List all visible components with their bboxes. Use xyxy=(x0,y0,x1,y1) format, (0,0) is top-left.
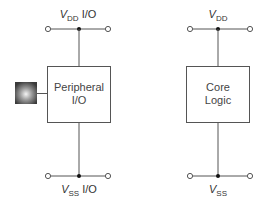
peripheral-io-title-line2: I/O xyxy=(72,94,87,106)
vdd-terminal-left xyxy=(187,26,192,31)
vdd-terminal-right xyxy=(247,26,252,31)
vss-io-label: VSS I/O xyxy=(61,183,97,198)
vss-io-junction-node xyxy=(77,174,81,178)
power-domain-diagram: VDD I/O Peripheral I/O VSS I/O VDD Core … xyxy=(0,0,265,205)
vss-io-terminal-left xyxy=(45,173,50,178)
peripheral-io-title-line1: Peripheral xyxy=(54,81,104,93)
vdd-label: VDD xyxy=(209,8,228,23)
vss-io-terminal-right xyxy=(105,173,110,178)
vdd-io-terminal-left xyxy=(45,26,50,31)
vss-label: VSS xyxy=(209,183,227,198)
core-logic-title-line2: Logic xyxy=(205,94,232,106)
io-pad-icon xyxy=(15,82,37,104)
core-logic-domain: VDD Core Logic VSS xyxy=(187,8,253,198)
vss-junction-node xyxy=(216,174,220,178)
vdd-io-label: VDD I/O xyxy=(60,8,97,23)
vss-terminal-right xyxy=(247,173,252,178)
vss-terminal-left xyxy=(187,173,192,178)
vdd-io-terminal-right xyxy=(105,26,110,31)
peripheral-io-domain: VDD I/O Peripheral I/O VSS I/O xyxy=(15,8,111,198)
core-logic-title-line1: Core xyxy=(206,81,230,93)
